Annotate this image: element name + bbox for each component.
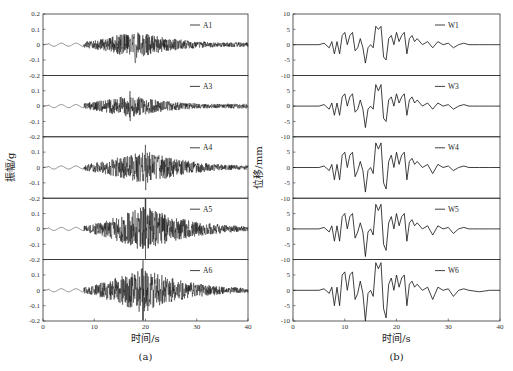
y-tick-label: -0.2 (29, 72, 41, 80)
y-tick-label: 0.1 (31, 26, 40, 34)
subplot-w5: 50-5-10W5 (281, 198, 500, 264)
y-tick-label: -0.1 (29, 118, 41, 126)
y-tick-label: -0.1 (29, 56, 41, 64)
y-tick-label: 0 (37, 41, 41, 49)
x-tick-label: 10 (91, 323, 99, 331)
legend-label: A5 (203, 205, 212, 214)
x-axis-label: 时间/s (131, 332, 160, 344)
y-tick-label: -10 (281, 256, 291, 264)
y-axis-label: 振幅/g (4, 152, 16, 182)
y-tick-label: 0 (37, 225, 41, 233)
subplot-a1: 0.20.10-0.1-0.2A1 (29, 10, 248, 79)
y-tick-label: -0.1 (29, 241, 41, 249)
subplot-a3: 0.10-0.1-0.2A3 (29, 75, 248, 141)
y-tick-label: 0 (287, 287, 291, 295)
y-tick-label: 5 (287, 26, 291, 34)
panel-caption: (b) (389, 351, 403, 362)
y-axis-label: 位移/mm (252, 146, 264, 189)
x-tick-label: 20 (393, 323, 401, 331)
y-tick-label: 5 (287, 210, 291, 218)
y-tick-label: 0.1 (31, 148, 40, 156)
legend-label: A4 (203, 143, 212, 152)
x-tick-label: 20 (142, 323, 150, 331)
y-tick-label: 5 (287, 271, 291, 279)
panel-caption: (a) (139, 351, 153, 362)
x-axis-label: 时间/s (382, 332, 411, 344)
y-tick-label: -5 (284, 118, 290, 126)
y-tick-label: 5 (287, 87, 291, 95)
x-tick-label: 30 (445, 323, 453, 331)
legend-label: W3 (448, 82, 459, 91)
y-tick-label: 0 (37, 164, 41, 172)
series-line-a6 (43, 260, 248, 320)
y-tick-label: 0 (287, 164, 291, 172)
y-tick-label: -0.1 (29, 179, 41, 187)
subplot-w6: 50-5-10W6 (281, 260, 500, 326)
legend-label: W6 (448, 266, 459, 275)
x-tick-label: 0 (41, 323, 45, 331)
y-tick-label: 0 (37, 287, 41, 295)
y-tick-label: 10 (283, 10, 291, 18)
y-tick-label: 0 (287, 225, 291, 233)
series-line-w1 (293, 26, 500, 63)
y-tick-label: 5 (287, 148, 291, 156)
series-line-w3 (293, 85, 500, 128)
y-tick-label: 0.2 (31, 10, 40, 18)
subplot-w1: 1050-5-10W1 (281, 10, 500, 79)
legend-label: A1 (203, 21, 212, 30)
y-tick-label: -0.2 (29, 317, 41, 325)
y-tick-label: -10 (281, 195, 291, 203)
series-line-a1 (43, 33, 248, 63)
legend-label: A6 (203, 266, 212, 275)
y-tick-label: -0.2 (29, 133, 41, 141)
series-line-w6 (293, 263, 500, 321)
legend-label: W5 (448, 205, 459, 214)
y-tick-label: -0.1 (29, 302, 41, 310)
subplot-w4: 50-5-10W4 (281, 137, 500, 203)
y-tick-label: 0 (287, 41, 291, 49)
y-tick-label: 0 (37, 102, 41, 110)
y-tick-label: -5 (284, 179, 290, 187)
y-tick-label: 0.1 (31, 210, 40, 218)
y-tick-label: -5 (284, 241, 290, 249)
y-tick-label: 0.1 (31, 87, 40, 95)
figure-canvas: 0.20.10-0.1-0.2A10.10-0.1-0.2A30.10-0.1-… (0, 0, 513, 371)
y-tick-label: -0.2 (29, 195, 41, 203)
subplot-a6: 0.10-0.1-0.2A6 (29, 260, 248, 326)
series-line-w5 (293, 204, 500, 256)
subplot-w3: 50-5-10W3 (281, 75, 500, 141)
y-tick-label: -10 (281, 133, 291, 141)
legend-label: W1 (448, 21, 459, 30)
x-tick-label: 40 (245, 323, 253, 331)
legend-label: W4 (448, 143, 459, 152)
subplot-a4: 0.10-0.1-0.2A4 (29, 137, 248, 203)
series-line-w4 (293, 143, 500, 192)
y-tick-label: -10 (281, 72, 291, 80)
y-tick-label: -5 (284, 56, 290, 64)
x-tick-label: 0 (291, 323, 295, 331)
panel-b-displacement: 1050-5-10W150-5-10W350-5-10W450-5-10W550… (252, 10, 504, 362)
series-line-a4 (43, 145, 248, 190)
x-tick-label: 10 (341, 323, 349, 331)
subplot-a5: 0.10-0.1-0.2A5 (29, 198, 248, 264)
legend-label: A3 (203, 82, 212, 91)
y-tick-label: -10 (281, 317, 291, 325)
y-tick-label: -5 (284, 302, 290, 310)
y-tick-label: -0.2 (29, 256, 41, 264)
y-tick-label: 0 (287, 102, 291, 110)
series-line-a5 (43, 199, 248, 259)
x-tick-label: 40 (497, 323, 505, 331)
y-tick-label: 0.1 (31, 271, 40, 279)
series-line-a3 (43, 91, 248, 121)
x-tick-label: 30 (193, 323, 201, 331)
panel-a-acceleration: 0.20.10-0.1-0.2A10.10-0.1-0.2A30.10-0.1-… (4, 10, 252, 362)
